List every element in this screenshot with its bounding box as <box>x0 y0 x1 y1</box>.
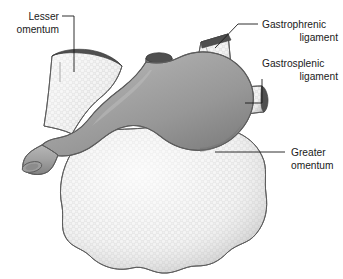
anatomy-figure: Lesser omentum Gastrophrenic ligament Ga… <box>0 0 343 279</box>
label-lesser-omentum: Lesser omentum <box>17 11 60 35</box>
label-gastrosplenic-ligament: Gastrosplenic ligament <box>262 58 338 82</box>
label-greater-omentum: Greater omentum <box>291 147 333 171</box>
label-gastrosplenic-line2: ligament <box>299 71 338 82</box>
label-gastrophrenic-line2: ligament <box>299 32 338 43</box>
label-lesser-omentum-line1: Lesser <box>28 11 59 22</box>
label-gastrophrenic-line1: Gastrophrenic <box>262 19 326 30</box>
label-lesser-omentum-line2: omentum <box>17 24 59 35</box>
label-gastrophrenic-ligament: Gastrophrenic ligament <box>262 19 338 43</box>
anatomy-illustration: Lesser omentum Gastrophrenic ligament Ga… <box>0 0 343 279</box>
greater-omentum-apron <box>60 127 266 273</box>
label-greater-omentum-line2: omentum <box>291 160 333 171</box>
label-gastrosplenic-line1: Gastrosplenic <box>262 58 324 69</box>
label-greater-omentum-line1: Greater <box>291 147 326 158</box>
